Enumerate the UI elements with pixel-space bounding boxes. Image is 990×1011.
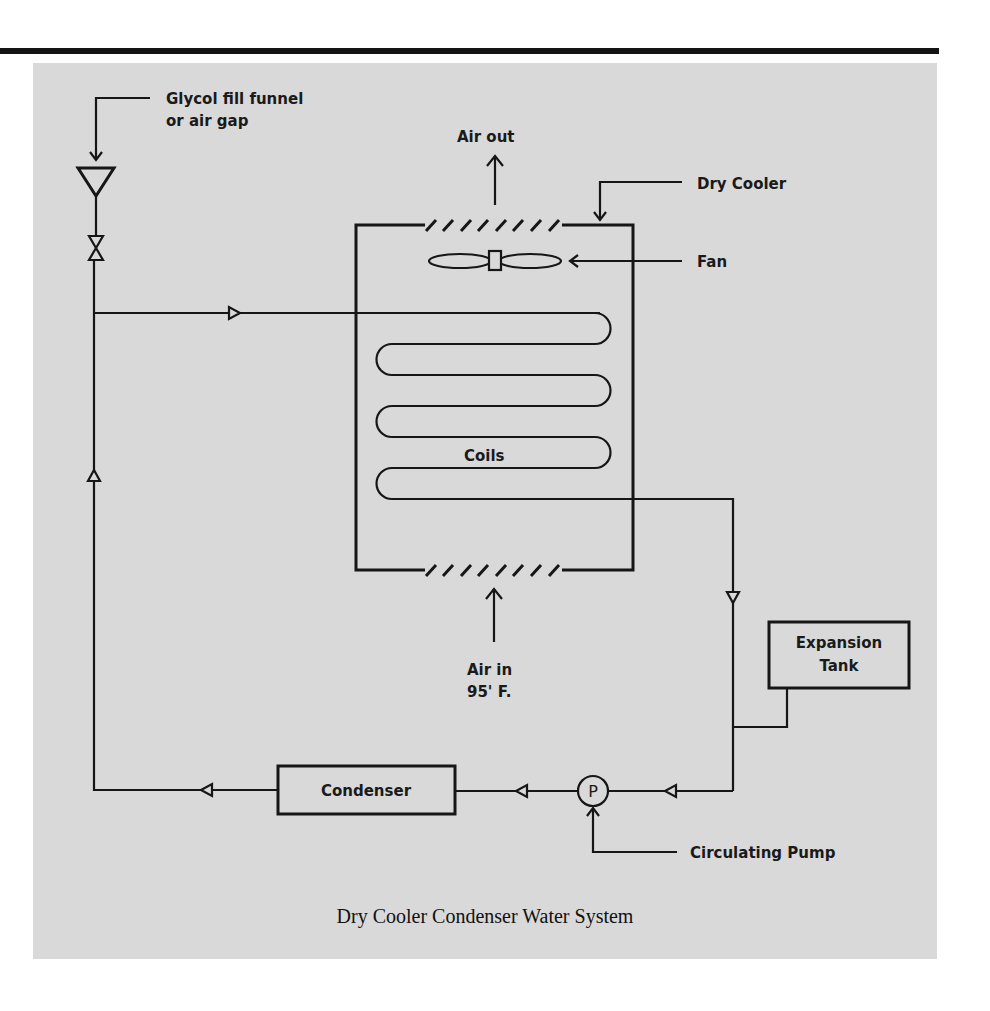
dry-cooler-label: Dry Cooler: [697, 175, 787, 193]
flow-arrow-left-icon: [201, 784, 212, 796]
glycol-label-line1: Glycol fill funnel: [166, 90, 303, 108]
condenser-label: Condenser: [321, 782, 412, 800]
dry-cooler-left-wall: [356, 225, 425, 570]
glycol-leader-line: [96, 98, 150, 160]
flow-arrow-right-icon: [229, 307, 240, 319]
glycol-label-line2: or air gap: [166, 112, 249, 130]
dry-cooler-right-wall: [562, 225, 633, 570]
dry-cooler-leader-line: [600, 182, 682, 219]
expansion-tank-label-line1: Expansion: [796, 634, 883, 652]
flow-arrow-up-icon: [88, 470, 100, 481]
funnel-triangle-icon: [78, 168, 114, 196]
coils-serpentine: [356, 313, 733, 791]
fan-icon: [429, 251, 561, 270]
air-in-label-line2: 95' F.: [467, 683, 511, 701]
expansion-tank-box: [769, 622, 909, 688]
coils-label: Coils: [464, 447, 505, 465]
flow-arrow-down-icon: [727, 592, 739, 603]
circulating-pump-label: Circulating Pump: [690, 844, 836, 862]
air-out-label: Air out: [457, 128, 515, 146]
fan-label: Fan: [697, 253, 727, 271]
flow-arrow-left-icon: [516, 785, 527, 797]
pump-symbol: P: [588, 782, 598, 801]
valve-bowtie-icon: [89, 236, 103, 260]
dry-cooler-box: [356, 220, 633, 576]
system-diagram: Glycol fill funnel or air gap: [0, 0, 990, 1011]
air-in-label-line1: Air in: [467, 661, 512, 679]
pump-leader-line: [593, 808, 677, 852]
figure-caption: Dry Cooler Condenser Water System: [337, 905, 634, 928]
expansion-tank-label-line2: Tank: [819, 657, 859, 675]
flow-arrow-left-icon: [665, 785, 676, 797]
top-grille-icon: [426, 220, 559, 231]
bottom-grille-icon: [426, 565, 559, 576]
expansion-tank-connection: [733, 688, 787, 727]
glycol-label: Glycol fill funnel or air gap: [90, 90, 303, 160]
